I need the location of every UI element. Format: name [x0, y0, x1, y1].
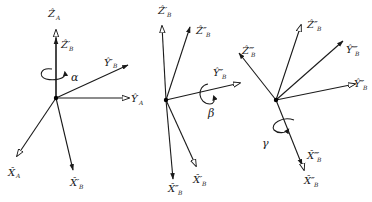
label-x-a: X̂ — [7, 167, 16, 178]
panel-3: γ Ẑ″ B Ẑ‴ B Ŷ‴ B Ŷ″ B X̂‴ B X̂″ B — [239, 19, 368, 188]
origin-dot — [54, 96, 58, 100]
axis-y-b-double-prime — [276, 84, 355, 100]
label-x-b-double-prime-sub: B — [177, 189, 183, 196]
label-y-b-double-prime-sub: B — [362, 84, 368, 91]
angle-gamma-label: γ — [262, 137, 269, 150]
angle-beta-label: β — [207, 107, 214, 120]
label-x-b-prime-sub: B — [201, 180, 207, 187]
label-x-b-double-prime-sub: B — [313, 181, 319, 188]
axis-z-b-prime — [162, 26, 166, 100]
axis-y-b-double-prime — [166, 83, 240, 100]
label-z-b-double-prime-sub: B — [316, 25, 322, 32]
axis-z-b-double-prime — [166, 27, 190, 100]
label-y-b-prime-sub: B — [112, 62, 118, 69]
label-z-b-double-prime-sub: B — [205, 31, 211, 38]
axis-y-b-prime — [56, 65, 128, 98]
axis-z-b-triple-prime — [239, 53, 276, 100]
origin-dot — [274, 98, 278, 102]
label-y-a: Ŷ — [131, 93, 139, 104]
panel-1: α Ẑ A Ẑ′ B Ŷ′ B Ŷ A X̂ A X̂′ B — [7, 8, 144, 190]
axis-x-b-prime — [56, 98, 73, 170]
angle-alpha-label: α — [71, 71, 79, 84]
label-x-a-sub: A — [15, 172, 21, 179]
label-z-b-triple-prime-sub: B — [250, 51, 256, 58]
label-z-a-sub: A — [55, 14, 61, 21]
label-z-a: Ẑ — [47, 8, 56, 19]
axis-x-a — [17, 98, 56, 156]
label-y-a-sub: A — [138, 99, 144, 106]
rotation-arrow-alpha-icon — [41, 69, 65, 80]
label-y-b-double-prime-sub: B — [221, 73, 227, 80]
euler-rotation-diagram: α Ẑ A Ẑ′ B Ŷ′ B Ŷ A X̂ A X̂′ B β Ẑ′ B Ẑ″… — [0, 0, 372, 202]
panel-2: β Ẑ′ B Ẑ″ B Ŷ″ B X̂″ B X̂′ B — [157, 5, 240, 196]
axis-x-b-double-prime — [302, 163, 304, 170]
rotation-arrow-gamma-icon — [273, 119, 294, 133]
label-x-b-triple-prime-sub: B — [316, 156, 322, 163]
origin-dot — [164, 98, 168, 102]
rotation-arrow-beta-icon — [200, 84, 214, 104]
label-x-b-prime-sub: B — [78, 183, 84, 190]
label-z-b-prime-sub: B — [68, 45, 74, 52]
label-y-b-triple-prime-sub: B — [354, 50, 360, 57]
label-z-b-prime-sub: B — [166, 11, 172, 18]
